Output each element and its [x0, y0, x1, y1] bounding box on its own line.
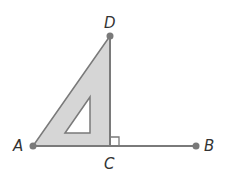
geometry-diagram: A B C D: [0, 0, 225, 180]
label-d: D: [104, 14, 116, 32]
label-b: B: [204, 137, 214, 155]
label-a: A: [12, 137, 23, 155]
point-d: [107, 33, 114, 40]
label-c: C: [104, 155, 115, 173]
point-a: [30, 143, 37, 150]
right-angle-mark: [110, 137, 119, 146]
point-b: [193, 143, 200, 150]
set-square: [33, 36, 110, 146]
